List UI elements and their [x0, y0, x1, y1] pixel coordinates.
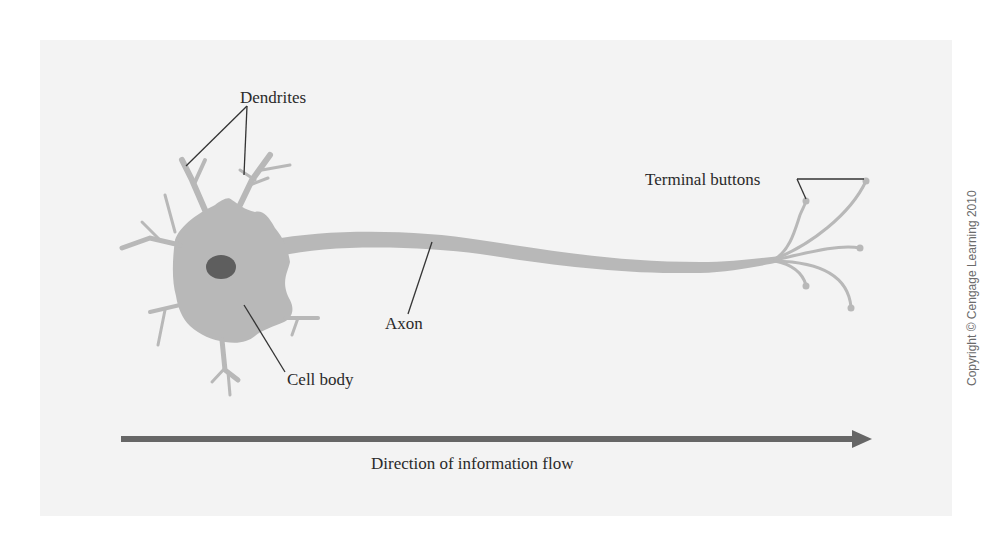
- direction-arrow: [121, 430, 872, 448]
- axon-shape: [270, 232, 780, 273]
- copyright-notice: Copyright © Cengage Learning 2010: [965, 190, 979, 386]
- nucleus: [206, 255, 236, 279]
- label-direction: Direction of information flow: [371, 454, 574, 474]
- neuron: [122, 155, 870, 395]
- label-cell-body: Cell body: [287, 370, 354, 390]
- label-terminal-buttons: Terminal buttons: [645, 170, 760, 190]
- label-axon: Axon: [385, 314, 423, 334]
- label-dendrites: Dendrites: [240, 88, 306, 108]
